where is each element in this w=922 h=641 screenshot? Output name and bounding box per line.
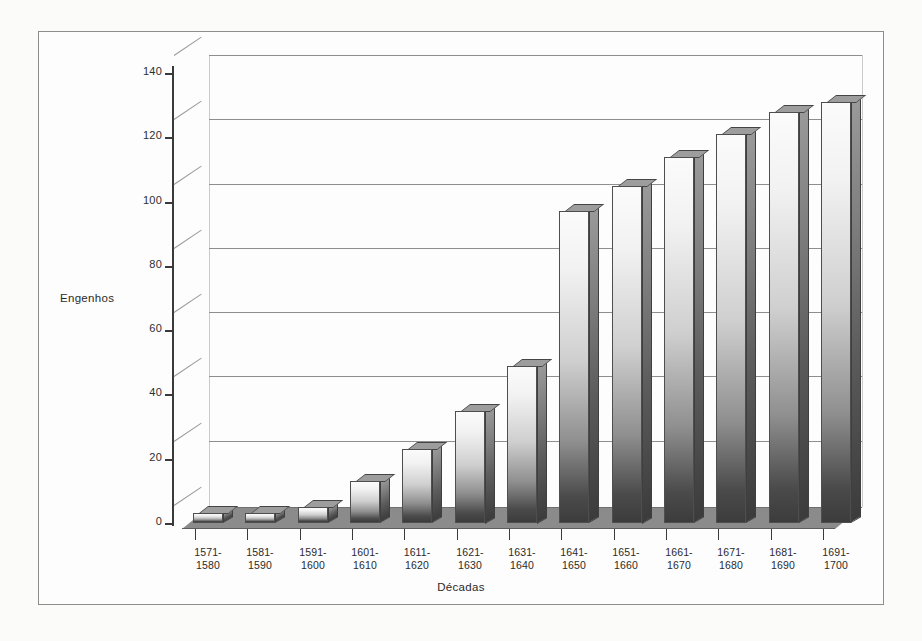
x-tick-label-line-2: 1670 (653, 559, 705, 572)
y-axis-title: Engenhos (60, 292, 114, 304)
x-tick-1611-1620 (404, 529, 405, 540)
bar-front-face (402, 449, 432, 523)
x-tick-1671-1680 (718, 529, 719, 540)
y-tick-label-100: 100 (122, 194, 162, 206)
bar-side-face (642, 180, 652, 523)
x-tick-label-1601-1610: 1601-1610 (339, 546, 391, 572)
x-tick-1641-1650 (561, 529, 562, 540)
bar-front-face (769, 112, 799, 523)
bar-1661-1670 (664, 157, 694, 523)
x-tick-label-line-2: 1600 (287, 559, 339, 572)
bar-1681-1690 (769, 112, 799, 523)
y-depth-connector-140 (174, 55, 200, 77)
x-tick-label-line-1: 1601- (339, 546, 391, 559)
x-tick-label-1651-1660: 1651-1660 (600, 546, 652, 572)
x-tick-label-1621-1630: 1621-1630 (444, 546, 496, 572)
bar-front-face (821, 102, 851, 523)
x-tick-label-line-1: 1671- (705, 546, 757, 559)
bar-front-face (193, 513, 223, 523)
bar-1591-1600 (298, 507, 328, 523)
bar-side-face (694, 151, 704, 523)
x-tick-label-1631-1640: 1631-1640 (496, 546, 548, 572)
y-tick-40 (165, 394, 174, 396)
x-axis-title: Décadas (0, 581, 922, 593)
x-tick-label-line-2: 1700 (810, 559, 862, 572)
y-tick-label-40: 40 (122, 386, 162, 398)
x-tick-label-1591-1600: 1591-1600 (287, 546, 339, 572)
x-tick-label-line-2: 1650 (548, 559, 600, 572)
y-depth-connector-100 (174, 184, 200, 206)
x-tick-label-1571-1580: 1571-1580 (182, 546, 234, 572)
bar-1571-1580 (193, 513, 223, 523)
bar-front-face (507, 366, 537, 524)
y-tick-label-140: 140 (122, 65, 162, 77)
chart-plot-area: 020406080100120140 1571-15801581-1590159… (0, 0, 922, 641)
bar-side-face (485, 405, 495, 523)
y-tick-20 (165, 459, 174, 461)
bar-1671-1680 (716, 134, 746, 523)
x-tick-label-line-1: 1571- (182, 546, 234, 559)
x-tick-label-line-2: 1610 (339, 559, 391, 572)
y-tick-label-0: 0 (122, 515, 162, 527)
x-tick-1661-1670 (666, 529, 667, 540)
bar-1691-1700 (821, 102, 851, 523)
x-tick-label-line-1: 1631- (496, 546, 548, 559)
y-tick-60 (165, 330, 174, 332)
bar-front-face (716, 134, 746, 523)
bar-1651-1660 (612, 186, 642, 524)
x-tick-label-line-2: 1580 (182, 559, 234, 572)
y-depth-connector-20 (174, 441, 200, 463)
bar-side-face (589, 205, 599, 523)
bar-1601-1610 (350, 481, 380, 523)
x-tick-1651-1660 (614, 529, 615, 540)
y-tick-0 (165, 523, 174, 525)
x-tick-label-line-2: 1680 (705, 559, 757, 572)
x-tick-1631-1640 (509, 529, 510, 540)
x-tick-label-1611-1620: 1611-1620 (391, 546, 443, 572)
bar-side-face (851, 96, 861, 523)
bar-front-face (298, 507, 328, 523)
bar-side-face (432, 443, 442, 523)
x-tick-label-1581-1590: 1581-1590 (234, 546, 286, 572)
x-tick-label-line-1: 1651- (600, 546, 652, 559)
bar-side-face (746, 128, 756, 523)
gridline-60 (209, 312, 862, 313)
x-tick-label-1691-1700: 1691-1700 (810, 546, 862, 572)
gridline-120 (209, 119, 862, 120)
x-tick-1621-1630 (457, 529, 458, 540)
x-tick-label-1641-1650: 1641-1650 (548, 546, 600, 572)
x-tick-1571-1580 (195, 529, 196, 540)
x-tick-label-line-2: 1640 (496, 559, 548, 572)
y-tick-label-20: 20 (122, 451, 162, 463)
x-tick-label-1681-1690: 1681-1690 (757, 546, 809, 572)
y-tick-100 (165, 202, 174, 204)
y-tick-140 (165, 73, 174, 75)
y-tick-120 (165, 137, 174, 139)
bar-1631-1640 (507, 366, 537, 524)
bar-front-face (245, 513, 275, 523)
x-tick-label-1661-1670: 1661-1670 (653, 546, 705, 572)
y-tick-label-60: 60 (122, 322, 162, 334)
y-tick-label-80: 80 (122, 258, 162, 270)
y-tick-80 (165, 266, 174, 268)
bar-front-face (664, 157, 694, 523)
x-tick-label-line-1: 1641- (548, 546, 600, 559)
x-tick-label-line-1: 1621- (444, 546, 496, 559)
x-tick-label-line-1: 1691- (810, 546, 862, 559)
x-tick-label-line-1: 1591- (287, 546, 339, 559)
bar-side-face (380, 475, 390, 523)
x-tick-1591-1600 (300, 529, 301, 540)
bar-1641-1650 (559, 211, 589, 523)
bar-front-face (455, 411, 485, 524)
x-tick-label-line-2: 1590 (234, 559, 286, 572)
x-tick-1581-1590 (247, 529, 248, 540)
x-tick-label-line-2: 1660 (600, 559, 652, 572)
gridline-80 (209, 248, 862, 249)
x-tick-label-1671-1680: 1671-1680 (705, 546, 757, 572)
chart-back-wall-left-edge (209, 55, 210, 507)
bar-front-face (559, 211, 589, 523)
y-tick-label-120: 120 (122, 129, 162, 141)
bar-1611-1620 (402, 449, 432, 523)
y-depth-connector-80 (174, 248, 200, 270)
x-tick-1691-1700 (823, 529, 824, 540)
